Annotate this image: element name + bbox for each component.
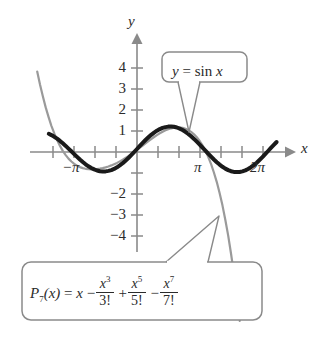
x-axis-label: x <box>301 141 308 156</box>
formula-den-3: 7! <box>160 292 178 309</box>
y-axis-arrowhead <box>132 33 143 44</box>
y-tick-label-minus3: −3 <box>103 207 126 222</box>
sin-callout-y: y <box>172 63 179 79</box>
y-axis-label: y <box>128 14 135 29</box>
formula-fraction-x7: x77! <box>160 277 178 309</box>
sin-callout-pointer <box>178 82 200 132</box>
y-tick-label-1: 1 <box>112 123 126 138</box>
sin-callout-equals: = <box>182 63 190 79</box>
poly-callout-pointer <box>166 216 219 262</box>
formula-num-3-exp: 7 <box>170 274 175 284</box>
formula-term-x: x <box>76 285 83 301</box>
polynomial-formula: P7(x) = x −x33! +x55! −x77! <box>30 277 179 309</box>
x-tick-label-2pi: 2π <box>250 160 265 175</box>
formula-fraction-x5: x55! <box>128 277 146 309</box>
x-axis-arrowhead <box>285 147 296 158</box>
sin-callout-label: y = sin x <box>172 63 223 80</box>
math-figure: y x 4 3 2 1 −2 −3 −4 −π π 2π y = sin x P… <box>0 0 323 337</box>
x-tick-label-minus-pi: −π <box>62 160 80 175</box>
formula-p-arg: (x) <box>44 285 61 301</box>
formula-plus: + <box>119 285 127 301</box>
formula-den-2: 5! <box>128 292 146 309</box>
y-tick-label-minus2: −2 <box>103 186 126 201</box>
formula-num-2-exp: 5 <box>138 274 143 284</box>
y-tick-label-2: 2 <box>112 102 126 117</box>
formula-minus-2: − <box>151 285 159 301</box>
y-tick-label-minus4: −4 <box>103 228 126 243</box>
sin-callout-sin: sin <box>195 63 213 79</box>
formula-num-1-exp: 3 <box>106 274 111 284</box>
formula-den-1: 3! <box>96 292 114 309</box>
y-tick-label-4: 4 <box>112 60 126 75</box>
x-tick-label-pi: π <box>194 160 202 175</box>
formula-equals: = <box>64 285 72 301</box>
y-tick-label-3: 3 <box>112 81 126 96</box>
formula-fraction-x3: x33! <box>96 277 114 309</box>
formula-p-symbol: P <box>30 285 39 301</box>
formula-minus-1: − <box>87 285 95 301</box>
sin-callout-x: x <box>216 63 223 79</box>
